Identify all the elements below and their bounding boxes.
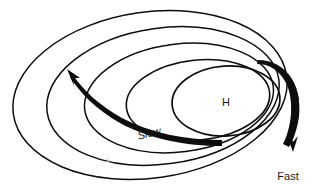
spiral-contour-figure: H Slow Fast s <box>0 0 321 194</box>
center-label-h: H <box>222 96 230 108</box>
diagram-canvas: H Slow Fast s <box>0 0 321 194</box>
faint-mark-label: s <box>106 155 110 164</box>
fast-label: Fast <box>277 170 298 182</box>
